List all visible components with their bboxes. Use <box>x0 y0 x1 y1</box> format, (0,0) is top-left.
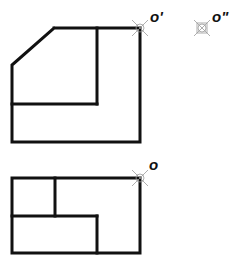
front-view-outline <box>12 28 140 142</box>
point-o-double-prime-label: o" <box>212 8 229 25</box>
point-o-double-prime-marker <box>194 20 210 36</box>
point-o-label: o <box>149 156 158 173</box>
projection-drawing: o' o" o <box>0 0 243 273</box>
front-view <box>12 28 140 142</box>
point-o-prime-label: o' <box>150 8 163 25</box>
top-view <box>12 178 140 253</box>
